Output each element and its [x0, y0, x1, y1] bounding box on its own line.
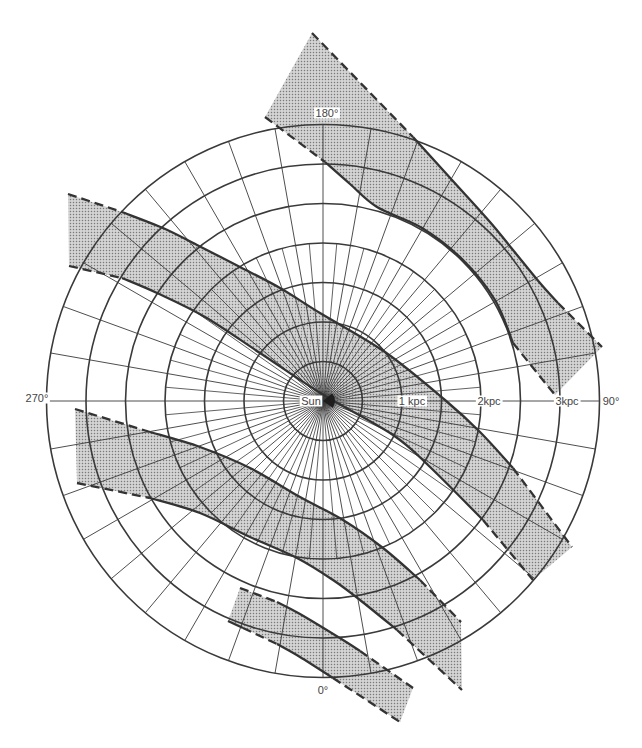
- svg-text:2kpc: 2kpc: [477, 395, 501, 407]
- sun-label: Sun: [300, 395, 323, 407]
- distance-label-2kpc: 2kpc: [476, 395, 503, 407]
- longitude-label-180: 180°: [314, 107, 340, 119]
- svg-text:Sun: Sun: [301, 395, 321, 407]
- svg-text:90°: 90°: [603, 395, 620, 407]
- longitude-label-270: 270°: [24, 392, 50, 404]
- galactic-polar-diagram: Sun 1 kpc 2kpc 3kpc 90° 180° 270° 0°: [0, 0, 642, 748]
- distance-label-3kpc: 3kpc: [554, 395, 581, 407]
- longitude-label-0: 0°: [316, 684, 330, 696]
- svg-text:3kpc: 3kpc: [555, 395, 579, 407]
- svg-text:270°: 270°: [26, 392, 49, 404]
- svg-text:1 kpc: 1 kpc: [399, 395, 426, 407]
- longitude-label-90: 90°: [601, 395, 621, 407]
- distance-label-1kpc: 1 kpc: [397, 395, 427, 407]
- svg-text:0°: 0°: [318, 684, 329, 696]
- svg-text:180°: 180°: [316, 107, 339, 119]
